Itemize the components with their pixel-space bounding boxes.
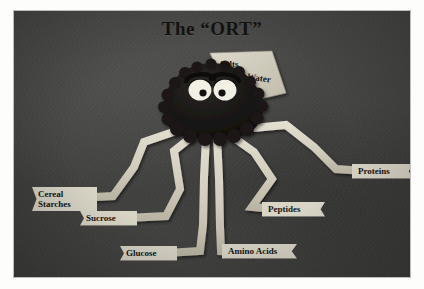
leg-peptides: [230, 135, 274, 209]
label-sucrose: Sucrose: [80, 211, 137, 226]
ort-creature-artwork: [14, 11, 410, 277]
label-glucose: Glucose: [120, 246, 177, 261]
label-cereal-starches: Cereal Starches: [32, 187, 97, 211]
label-peptides: Peptides: [262, 202, 325, 217]
label-amino-acids: Amino Acids: [222, 244, 297, 259]
leg-sucrose: [126, 135, 194, 218]
fan-label-salts: Salts: [220, 59, 239, 69]
label-proteins: Proteins: [352, 164, 410, 179]
photo-plate: The “ORT” Salts Water Cereal Starches Su…: [14, 11, 410, 277]
poster-page: The “ORT” Salts Water Cereal Starches Su…: [0, 0, 424, 289]
leg-amino-acids: [217, 137, 254, 252]
page-title: The “ORT”: [14, 18, 410, 40]
